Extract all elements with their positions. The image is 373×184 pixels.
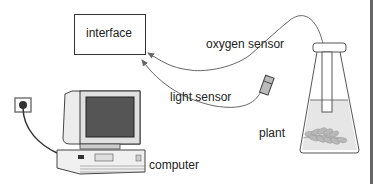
power-cable (23, 107, 57, 153)
plant-label: plant (259, 126, 285, 140)
computer-label: computer (149, 158, 199, 172)
light-sensor-icon (260, 75, 275, 95)
interface-label: interface (86, 26, 132, 40)
conical-flask-icon (300, 43, 359, 153)
light-sensor-label: light sensor (170, 90, 231, 104)
oxygen-sensor-label: oxygen sensor (206, 37, 284, 51)
computer-icon (57, 91, 145, 174)
